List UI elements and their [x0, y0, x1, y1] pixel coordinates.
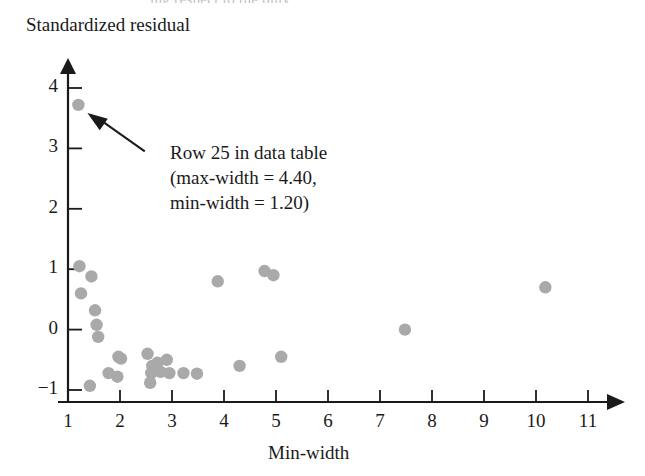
annotation-arrowhead — [83, 107, 107, 130]
y-axis-arrowhead — [60, 58, 76, 74]
annotation-label: Row 25 in data table (max-width = 4.40, … — [170, 140, 327, 215]
data-point-18 — [161, 354, 173, 366]
data-point-21 — [191, 367, 203, 379]
data-point-25 — [267, 269, 279, 281]
data-point-28 — [539, 281, 551, 293]
y-tick-label-3: 3 — [14, 135, 58, 157]
x-tick-label-11: 11 — [568, 410, 608, 432]
data-point-12 — [141, 348, 153, 360]
x-tick-label-6: 6 — [308, 410, 348, 432]
y-tick-label--1: −1 — [14, 377, 58, 399]
data-point-1 — [73, 260, 85, 272]
data-point-11 — [111, 371, 123, 383]
data-point-2 — [85, 270, 97, 282]
x-tick-label-5: 5 — [256, 410, 296, 432]
y-tick-label-2: 2 — [14, 196, 58, 218]
x-tick-label-3: 3 — [152, 410, 192, 432]
data-point-7 — [84, 380, 96, 392]
data-point-3 — [75, 287, 87, 299]
x-tick-label-2: 2 — [100, 410, 140, 432]
x-tick-label-9: 9 — [464, 410, 504, 432]
data-point-4 — [89, 304, 101, 316]
plot-canvas — [0, 0, 645, 476]
x-tick-label-8: 8 — [412, 410, 452, 432]
data-point-0 — [72, 99, 84, 111]
annotation-line-1: Row 25 in data table — [170, 140, 327, 165]
scatter-plot-figure: ing respect to the only Standardized res… — [0, 0, 645, 476]
data-point-23 — [233, 360, 245, 372]
x-tick-label-4: 4 — [204, 410, 244, 432]
x-tick-label-10: 10 — [516, 410, 556, 432]
data-point-5 — [90, 319, 102, 331]
y-tick-label-4: 4 — [14, 75, 58, 97]
data-point-26 — [275, 351, 287, 363]
annotation-arrow — [83, 107, 144, 151]
annotation-line-2: (max-width = 4.40, — [170, 165, 327, 190]
x-tick-label-7: 7 — [360, 410, 400, 432]
data-point-6 — [92, 331, 104, 343]
data-point-19 — [163, 367, 175, 379]
data-point-22 — [212, 275, 224, 287]
data-point-15 — [144, 377, 156, 389]
y-tick-label-0: 0 — [14, 317, 58, 339]
data-point-20 — [177, 367, 189, 379]
x-axis-arrowhead — [607, 394, 625, 410]
data-point-27 — [399, 323, 411, 335]
x-tick-label-1: 1 — [48, 410, 88, 432]
y-tick-label-1: 1 — [14, 256, 58, 278]
data-point-9 — [115, 352, 127, 364]
annotation-line-3: min-width = 1.20) — [170, 190, 327, 215]
